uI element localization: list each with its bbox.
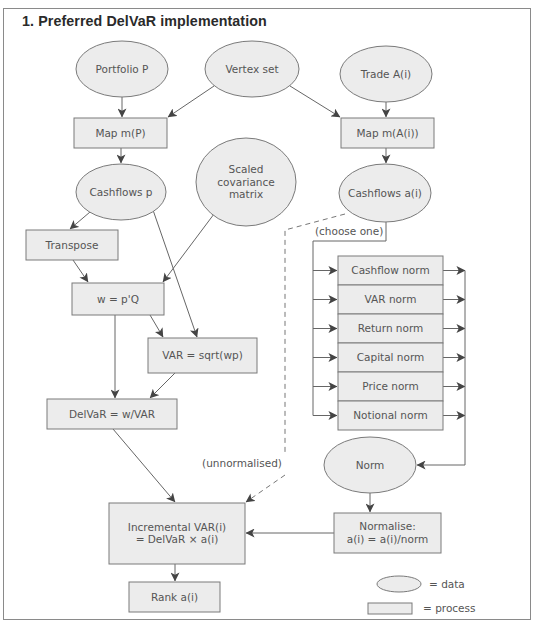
node-rank: Rank a(i) [129,582,220,612]
connector-arrow [285,214,345,455]
norm-option: Cashflow norm [338,256,443,285]
connector-arrow [153,210,197,337]
norm-option: Capital norm [338,343,443,372]
node-map_p: Map m(P) [74,118,167,148]
annotation-unnormalised: (unnormalised) [202,457,282,469]
node-trade: Trade A(i) [340,46,432,102]
node-transpose: Transpose [26,230,118,260]
connector-arrow [246,475,285,502]
connector-arrow [290,86,340,117]
node-delvar: DelVaR = w/VAR [47,399,177,429]
node-w_eq-label: w = p'Q [97,293,139,305]
node-cashflows_p: Cashflows p [76,164,166,220]
node-var_eq-label: VAR = sqrt(wp) [162,349,242,361]
node-vertex: Vertex set [205,41,299,97]
node-portfolio: Portfolio P [76,41,168,97]
norm-option-label: Capital norm [357,351,425,363]
node-incremental-label: Incremental VAR(i) [128,521,226,533]
node-scaled_cov-label: covariance [217,176,274,188]
connector-arrow [150,315,163,337]
node-transpose-label: Transpose [45,239,99,251]
node-trade-label: Trade A(i) [360,68,411,80]
annotation-choose-one: (choose one) [315,225,383,237]
norm-option-label: Price norm [362,380,418,392]
node-var_eq: VAR = sqrt(wp) [148,338,257,373]
node-map_a: Map m(A(i)) [341,118,434,148]
norm-option-label: Notional norm [353,409,428,421]
norm-option: Return norm [338,314,443,343]
node-vertex-label: Vertex set [225,63,278,75]
node-scaled_cov-label: matrix [229,188,263,200]
node-delvar-label: DelVaR = w/VAR [69,408,155,420]
connector-arrow [168,86,214,117]
node-incremental-label: = DelVaR × a(i) [136,533,219,545]
connector-arrow [163,214,214,282]
node-normalise-label: a(i) = a(i)/norm [347,533,429,545]
connector-arrow [150,373,175,398]
node-rank-label: Rank a(i) [151,591,198,603]
norm-option-label: VAR norm [365,293,417,305]
node-scaled_cov: Scaledcovariancematrix [196,138,296,226]
legend-process-label: = process [423,602,476,614]
node-cashflows_a: Cashflows a(i) [339,164,431,222]
legend-data-icon [377,576,421,592]
connector-arrow [113,429,175,502]
node-w_eq: w = p'Q [72,283,164,315]
nodes: Portfolio PVertex setTrade A(i)Map m(P)M… [26,41,443,612]
legend-data-label: = data [429,578,465,590]
node-norm: Norm [324,437,416,493]
node-scaled_cov-label: Scaled [229,163,264,175]
norm-option-label: Cashflow norm [351,264,429,276]
node-portfolio-label: Portfolio P [96,63,149,75]
node-normalise-label: Normalise: [359,520,415,532]
connector-arrow [70,212,90,229]
node-map_p-label: Map m(P) [95,127,145,139]
node-norm-label: Norm [356,459,385,471]
node-map_a-label: Map m(A(i)) [356,127,418,139]
norm-option: Price norm [338,372,443,401]
legend: = data= process [368,576,476,614]
legend-process-icon [368,603,412,614]
flowchart: (choose one)(unnormalised) Portfolio PVe… [0,0,538,629]
connector-arrow [73,260,88,282]
norm-option: VAR norm [338,285,443,314]
norm-option-label: Return norm [358,322,424,334]
node-incremental: Incremental VAR(i)= DelVaR × a(i) [109,503,245,564]
node-cashflows_p-label: Cashflows p [90,186,153,198]
norm-option: Notional norm [338,401,443,430]
node-normalise: Normalise:a(i) = a(i)/norm [334,513,441,553]
node-cashflows_a-label: Cashflows a(i) [348,187,422,199]
